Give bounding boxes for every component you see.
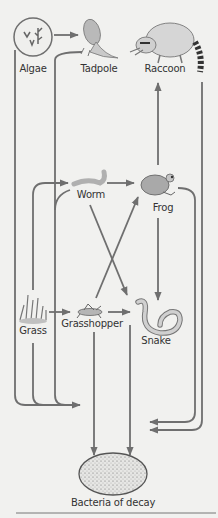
arrow-grass-bacteria: [33, 343, 80, 405]
grasshopper-icon: [77, 304, 102, 318]
worm-icon: [74, 172, 105, 184]
arrow-worm-bacteria: [55, 190, 70, 210]
label-grasshopper: Grasshopper: [61, 318, 123, 329]
arrow-algae-bacteria: [15, 50, 80, 405]
food-web-arrows: [15, 35, 202, 455]
arrow-grasshopper-frog: [96, 197, 138, 298]
label-frog: Frog: [153, 202, 174, 213]
algae-icon: [14, 18, 52, 56]
bacteria-icon: [79, 453, 147, 495]
grass-icon: [19, 295, 47, 324]
snake-icon: [138, 301, 180, 333]
tadpole-icon: [81, 17, 118, 58]
arrow-worm-snake: [90, 205, 127, 295]
label-tadpole: Tadpole: [81, 63, 118, 74]
food-web-diagram: [0, 0, 218, 518]
label-snake: Snake: [141, 335, 170, 346]
label-algae: Algae: [19, 63, 46, 74]
label-bacteria: Bacteria of decay: [71, 497, 155, 508]
frog-icon: [141, 174, 175, 195]
label-raccoon: Raccoon: [144, 63, 185, 74]
arrow-grass-worm: [33, 183, 68, 290]
label-grass: Grass: [19, 325, 46, 336]
arrow-frog-bacteria: [150, 188, 195, 422]
label-worm: Worm: [77, 189, 105, 200]
arrow-tadpole-bacteria: [55, 52, 82, 405]
